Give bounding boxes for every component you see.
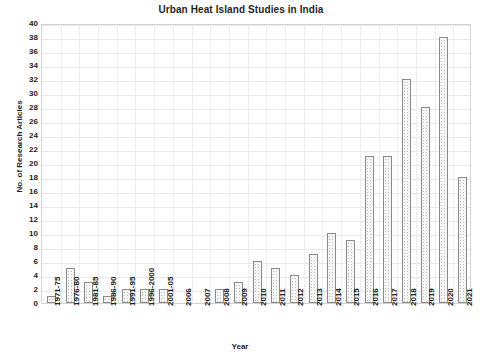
x-tick-label: 2008 [223,288,231,306]
x-tick-label: 2015 [353,288,361,306]
x-tick-label: 2020 [447,288,455,306]
x-tick-label: 2019 [428,288,436,306]
x-tick-label: 1971-75 [54,277,62,306]
x-tick-label: 2013 [316,288,324,306]
x-tick-label: 2009 [241,288,249,306]
x-tick-label: 2016 [372,288,380,306]
x-tick-label: 2017 [391,288,399,306]
x-tick-label: 1981-85 [92,277,100,306]
bar-chart: Urban Heat Island Studies in India No. o… [0,0,482,363]
x-tick-label: 2006 [185,288,193,306]
x-tick-label: 1986-90 [110,277,118,306]
x-tick-label: 2007 [204,288,212,306]
x-tick-label: 2018 [410,288,418,306]
x-tick-label: 2011 [279,289,287,306]
x-tick-label: 2014 [335,288,343,306]
x-tick-label: 2012 [297,288,305,306]
x-axis-tick-labels: 1971-751976-801981-851986-901991-951996-… [0,0,482,363]
x-tick-label: 1996-2000 [148,268,156,306]
x-tick-label: 1976-80 [73,277,81,306]
x-tick-label: 2021 [466,288,474,306]
x-tick-label: 2010 [260,288,268,306]
x-tick-label: 1991-95 [129,277,137,306]
x-tick-label: 2001-05 [167,277,175,306]
